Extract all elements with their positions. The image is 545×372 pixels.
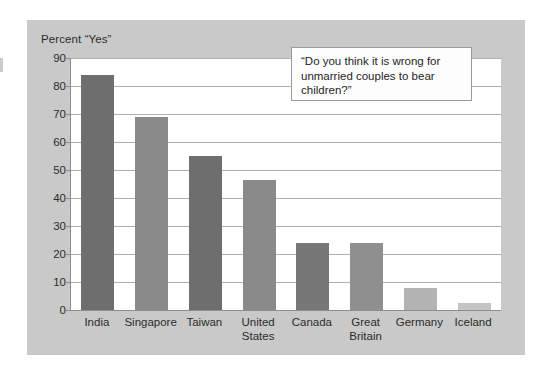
y-tick-mark-60 [65, 142, 70, 143]
chart-figure-panel: Percent “Yes” 0102030405060708090 IndiaS… [27, 20, 525, 355]
bar-canada [296, 243, 329, 310]
bar-taiwan [189, 156, 222, 310]
bar-india [81, 75, 114, 310]
y-tick-mark-0 [65, 310, 70, 311]
y-tick-mark-20 [65, 254, 70, 255]
y-axis-title: Percent “Yes” [41, 33, 112, 45]
gridline-70 [71, 114, 501, 115]
y-tick-label-0: 0 [40, 304, 66, 316]
page-edge-artifact [0, 58, 3, 72]
y-tick-label-10: 10 [40, 276, 66, 288]
y-tick-label-50: 50 [40, 164, 66, 176]
y-tick-label-80: 80 [40, 80, 66, 92]
x-axis-label-canada: Canada [285, 316, 339, 330]
y-tick-label-90: 90 [40, 52, 66, 64]
y-tick-mark-90 [65, 58, 70, 59]
y-tick-mark-30 [65, 226, 70, 227]
x-axis-label-united-states: UnitedStates [231, 316, 285, 343]
y-tick-mark-80 [65, 86, 70, 87]
x-axis-label-great-britain: GreatBritain [339, 316, 393, 343]
y-tick-label-30: 30 [40, 220, 66, 232]
x-axis-label-india: India [70, 316, 124, 330]
y-tick-label-40: 40 [40, 192, 66, 204]
x-axis-label-iceland: Iceland [446, 316, 500, 330]
y-tick-label-20: 20 [40, 248, 66, 260]
x-axis-label-singapore: Singapore [124, 316, 178, 330]
bar-great-britain [350, 243, 383, 310]
bar-germany [404, 288, 437, 310]
bar-iceland [458, 303, 491, 310]
x-axis-label-taiwan: Taiwan [178, 316, 232, 330]
question-callout-box: “Do you think it is wrong for unmarried … [291, 47, 472, 101]
x-axis-label-germany: Germany [393, 316, 447, 330]
bar-united-states [243, 180, 276, 310]
bar-singapore [135, 117, 168, 310]
y-tick-mark-40 [65, 198, 70, 199]
y-tick-label-60: 60 [40, 136, 66, 148]
y-tick-label-70: 70 [40, 108, 66, 120]
y-tick-mark-70 [65, 114, 70, 115]
callout-line-1: “Do you think it is wrong for [301, 55, 440, 67]
y-axis-tick-labels: 0102030405060708090 [38, 58, 66, 310]
callout-line-2: unmarried couples to bear [301, 70, 435, 82]
y-tick-mark-10 [65, 282, 70, 283]
y-tick-mark-50 [65, 170, 70, 171]
callout-line-3: children?” [301, 84, 352, 96]
